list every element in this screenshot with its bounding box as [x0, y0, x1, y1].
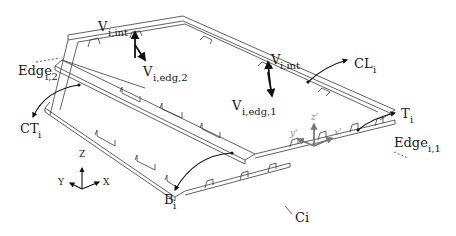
svg-text:V: V: [97, 19, 108, 34]
svg-text:Edge: Edge: [394, 135, 428, 150]
label-edge-1: Edge i,1: [394, 135, 441, 154]
label-v-edg-2: V i,edg,2: [142, 64, 188, 83]
ci-leader: [285, 206, 292, 214]
svg-text:i: i: [373, 64, 376, 75]
svg-text:T: T: [401, 106, 410, 121]
label-v-edg-1: V i,edg,1: [231, 98, 277, 117]
label-b: B i: [164, 192, 176, 211]
svg-text:Ci: Ci: [295, 210, 309, 225]
local-axes: z' y' x': [289, 112, 342, 146]
svg-text:CT: CT: [20, 121, 39, 136]
svg-text:i: i: [38, 129, 41, 140]
label-ct: CT i: [20, 121, 41, 140]
global-axes: Z Y X: [57, 149, 110, 189]
x-axis-label: X: [103, 177, 110, 187]
z-axis-label: Z: [79, 149, 85, 159]
svg-text:i,edg,1: i,edg,1: [242, 106, 277, 117]
label-v-int-left: V i,int: [97, 19, 128, 38]
middle-plate: [55, 60, 395, 164]
label-cl: CL i: [354, 56, 376, 75]
svg-text:i,1: i,1: [428, 143, 441, 154]
svg-text:i: i: [173, 200, 176, 211]
label-t: T i: [401, 106, 413, 125]
label-c: Ci: [295, 210, 309, 225]
svg-text:V: V: [142, 64, 153, 79]
x-prime-label: x': [334, 127, 342, 137]
svg-text:i,2: i,2: [45, 71, 58, 82]
svg-text:i,edg,2: i,edg,2: [153, 72, 188, 83]
svg-text:CL: CL: [354, 56, 373, 71]
svg-text:i,int: i,int: [280, 60, 300, 71]
cl-pointer: [308, 60, 347, 82]
svg-text:V: V: [231, 98, 242, 113]
label-edge-2: Edge i,2: [18, 63, 58, 82]
label-v-int-right: V i,int: [270, 52, 300, 71]
structural-diagram: Z Y X z' y' x' V i,int V i,edg,2 V i,int…: [0, 0, 456, 236]
edge-1-leader: [394, 152, 408, 158]
y-prime-label: y': [289, 128, 298, 138]
y-axis-label: Y: [57, 177, 65, 187]
v-arrows-left: [135, 32, 145, 60]
edge-2-leader: [36, 58, 60, 62]
svg-text:i,int: i,int: [108, 27, 128, 38]
svg-text:i: i: [410, 114, 413, 125]
z-prime-label: z': [310, 112, 318, 122]
